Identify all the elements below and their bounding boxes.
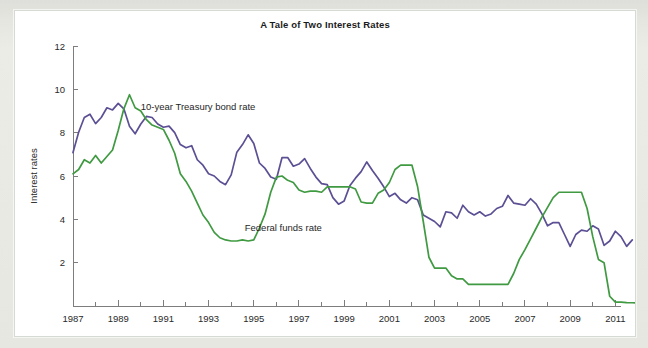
x-tick-label: 1991 xyxy=(153,313,174,324)
series-line-fed-funds xyxy=(73,95,635,303)
x-tick-label: 2009 xyxy=(560,313,581,324)
chart-axes xyxy=(73,46,621,306)
x-tick-label: 2007 xyxy=(514,313,535,324)
chart-series-lines xyxy=(73,95,635,303)
x-tick-label: 1993 xyxy=(198,313,219,324)
series-label-treasury: 10-year Treasury bond rate xyxy=(141,101,256,112)
x-tick-label: 1997 xyxy=(288,313,309,324)
y-tick-label: 4 xyxy=(60,214,65,225)
y-tick-label: 10 xyxy=(54,84,65,95)
x-tick-label: 1995 xyxy=(243,313,264,324)
chart-card: A Tale of Two Interest Rates 24681012 19… xyxy=(14,10,636,337)
x-tick-label: 2011 xyxy=(605,313,625,324)
x-tick-label: 2005 xyxy=(469,313,490,324)
x-tick-label: 1999 xyxy=(334,313,355,324)
x-tick-label: 2003 xyxy=(424,313,445,324)
y-tick-label: 8 xyxy=(60,127,65,138)
page-root: A Tale of Two Interest Rates 24681012 19… xyxy=(0,0,648,348)
y-axis-title: Interest rates xyxy=(28,148,39,204)
line-chart: 24681012 1987198919911993199519971999200… xyxy=(15,11,635,336)
x-tick-label: 1989 xyxy=(108,313,129,324)
y-tick-label: 6 xyxy=(60,171,65,182)
x-tick-label: 1987 xyxy=(62,313,83,324)
series-line-treasury xyxy=(73,103,632,246)
chart-annotations: 10-year Treasury bond rateFederal funds … xyxy=(141,101,322,233)
y-tick-label: 2 xyxy=(60,257,65,268)
series-label-fed-funds: Federal funds rate xyxy=(245,222,322,233)
x-axis-ticks: 1987198919911993199519971999200120032005… xyxy=(62,300,625,324)
x-tick-label: 2001 xyxy=(379,313,400,324)
chart-plot-area: 24681012 1987198919911993199519971999200… xyxy=(15,11,635,336)
y-tick-label: 12 xyxy=(54,41,65,52)
y-axis-ticks: 24681012 xyxy=(54,41,78,269)
